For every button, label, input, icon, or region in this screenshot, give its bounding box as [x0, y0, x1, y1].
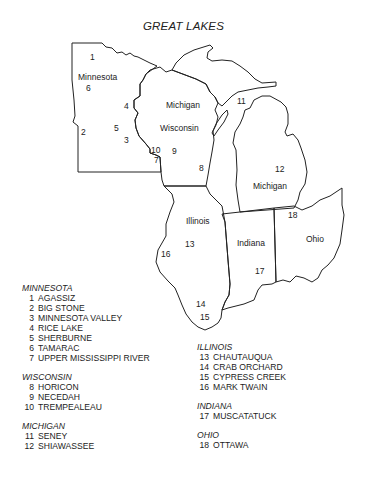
legend-number: 3: [22, 313, 34, 323]
legend-item: 11SENEY: [22, 431, 150, 441]
legend-item: 3MINNESOTA VALLEY: [22, 313, 150, 323]
legend-group-ohio: OHIO 18OTTAWA: [197, 430, 286, 450]
michigan-lower-outline: [233, 96, 307, 212]
legend-number: 5: [22, 333, 34, 343]
legend-item: 1AGASSIZ: [22, 293, 150, 303]
legend-number: 2: [22, 303, 34, 313]
legend-item: 8HORICON: [22, 382, 150, 392]
legend-name: UPPER MISSISSIPPI RIVER: [38, 353, 150, 363]
legend-number: 13: [197, 352, 209, 362]
legend-number: 1: [22, 293, 34, 303]
refuge-marker: 12: [275, 164, 285, 174]
state-label: Ohio: [306, 234, 324, 244]
legend-name: HORICON: [38, 382, 79, 392]
refuge-marker: 3: [124, 135, 129, 145]
refuge-marker: 16: [161, 249, 171, 259]
legend-name: TAMARAC: [38, 343, 79, 353]
legend-name: MARK TWAIN: [213, 382, 267, 392]
refuge-marker: 5: [114, 123, 119, 133]
refuge-marker: 10: [151, 145, 161, 155]
refuge-marker: 2: [81, 127, 86, 137]
legend-number: 11: [22, 431, 34, 441]
refuge-marker: 15: [200, 312, 210, 322]
legend-name: AGASSIZ: [38, 293, 75, 303]
refuge-marker: 6: [86, 83, 91, 93]
legend-number: 12: [22, 441, 34, 451]
legend-number: 14: [197, 362, 209, 372]
green-bay-outline: [212, 110, 228, 136]
legend-state-heading: MICHIGAN: [22, 421, 150, 431]
legend-left: MINNESOTA 1AGASSIZ 2BIG STONE 3MINNESOTA…: [22, 283, 150, 460]
legend-name: RICE LAKE: [38, 323, 83, 333]
legend-item: 7UPPER MISSISSIPPI RIVER: [22, 353, 150, 363]
legend-number: 15: [197, 372, 209, 382]
legend-number: 4: [22, 323, 34, 333]
refuge-marker: 4: [124, 101, 129, 111]
refuge-marker: 17: [255, 266, 265, 276]
legend-number: 17: [197, 411, 209, 421]
legend-state-heading: OHIO: [197, 430, 286, 440]
refuge-marker: 8: [199, 163, 204, 173]
legend-state-heading: ILLINOIS: [197, 342, 286, 352]
state-label: Minnesota: [78, 72, 117, 82]
refuge-marker: 7: [154, 155, 159, 165]
legend-name: SHERBURNE: [38, 333, 92, 343]
legend-item: 9NECEDAH: [22, 392, 150, 402]
refuge-marker: 11: [237, 96, 246, 106]
legend-number: 6: [22, 343, 34, 353]
legend-name: SHIAWASSEE: [38, 441, 94, 451]
legend-group-michigan: MICHIGAN 11SENEY 12SHIAWASSEE: [22, 421, 150, 451]
legend-number: 7: [22, 353, 34, 363]
legend-item: 4RICE LAKE: [22, 323, 150, 333]
legend-item: 17MUSCATATUCK: [197, 411, 286, 421]
legend-number: 9: [22, 392, 34, 402]
legend-state-heading: INDIANA: [197, 401, 286, 411]
legend-name: NECEDAH: [38, 392, 80, 402]
legend-group-indiana: INDIANA 17MUSCATATUCK: [197, 401, 286, 421]
refuge-marker: 13: [185, 239, 195, 249]
legend-item: 10TREMPEALEAU: [22, 402, 150, 412]
state-labels: Minnesota Wisconsin Michigan Michigan Il…: [78, 72, 324, 248]
legend-state-heading: MINNESOTA: [22, 283, 150, 293]
legend-name: SENEY: [38, 431, 67, 441]
legend-name: MUSCATATUCK: [213, 411, 277, 421]
state-label: Indiana: [237, 238, 265, 248]
legend-number: 8: [22, 382, 34, 392]
minnesota-outline: [72, 43, 161, 172]
legend-right: ILLINOIS 13CHAUTAUQUA 14CRAB ORCHARD 15C…: [197, 342, 286, 459]
legend-number: 16: [197, 382, 209, 392]
legend-name: OTTAWA: [213, 440, 248, 450]
legend-item: 18OTTAWA: [197, 440, 286, 450]
state-label: Michigan: [253, 181, 287, 191]
legend-state-heading: WISCONSIN: [22, 372, 150, 382]
legend-number: 18: [197, 440, 209, 450]
legend-name: CRAB ORCHARD: [213, 362, 283, 372]
legend-name: TREMPEALEAU: [38, 402, 102, 412]
state-label: Illinois: [186, 216, 210, 226]
legend-item: 6TAMARAC: [22, 343, 150, 353]
legend-item: 16MARK TWAIN: [197, 382, 286, 392]
legend-group-minnesota: MINNESOTA 1AGASSIZ 2BIG STONE 3MINNESOTA…: [22, 283, 150, 363]
legend-item: 12SHIAWASSEE: [22, 441, 150, 451]
refuge-marker: 14: [196, 299, 206, 309]
legend-item: 14CRAB ORCHARD: [197, 362, 286, 372]
legend-group-wisconsin: WISCONSIN 8HORICON 9NECEDAH 10TREMPEALEA…: [22, 372, 150, 412]
legend-name: BIG STONE: [38, 303, 85, 313]
legend-name: MINNESOTA VALLEY: [38, 313, 122, 323]
refuge-marker: 1: [90, 52, 95, 62]
state-label: Wisconsin: [160, 123, 199, 133]
legend-group-illinois: ILLINOIS 13CHAUTAUQUA 14CRAB ORCHARD 15C…: [197, 342, 286, 392]
legend-number: 10: [22, 402, 34, 412]
refuge-marker: 9: [172, 146, 177, 156]
legend-item: 2BIG STONE: [22, 303, 150, 313]
refuge-marker: 18: [288, 210, 298, 220]
state-label: Michigan: [166, 100, 200, 110]
legend-name: CYPRESS CREEK: [213, 372, 286, 382]
legend-item: 5SHERBURNE: [22, 333, 150, 343]
legend-item: 15CYPRESS CREEK: [197, 372, 286, 382]
legend-name: CHAUTAUQUA: [213, 352, 273, 362]
indiana-outline: [222, 208, 276, 310]
legend-item: 13CHAUTAUQUA: [197, 352, 286, 362]
